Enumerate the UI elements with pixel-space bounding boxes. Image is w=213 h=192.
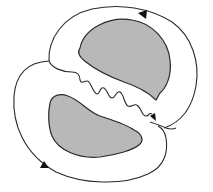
arrow-head-center xyxy=(150,113,156,121)
lower-lobe xyxy=(49,95,142,158)
right-inner-flow xyxy=(150,122,176,129)
flow-diagram xyxy=(0,0,213,192)
diagram-canvas xyxy=(0,0,213,192)
arrow-head-top xyxy=(138,10,147,19)
upper-inner-flow xyxy=(49,61,72,72)
